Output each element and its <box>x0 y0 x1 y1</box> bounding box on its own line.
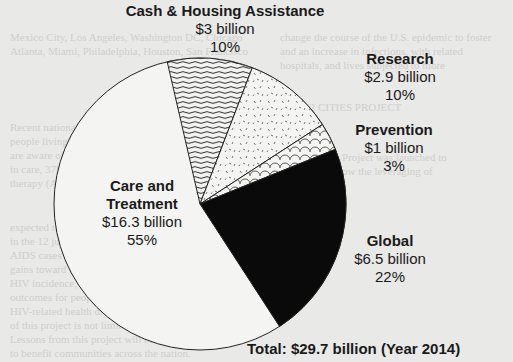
label-research: Research $2.9 billion 10% <box>340 50 460 104</box>
total-label: Total: $29.7 billion (Year 2014) <box>247 340 460 357</box>
label-prevention: Prevention $1 billion 3% <box>334 121 454 175</box>
label-care-and-treatment: Care and Treatment $16.3 billion 55% <box>80 177 204 249</box>
label-global: Global $6.5 billion 22% <box>330 232 450 286</box>
label-cash-housing: Cash & Housing Assistance $3 billion 10% <box>110 2 340 56</box>
